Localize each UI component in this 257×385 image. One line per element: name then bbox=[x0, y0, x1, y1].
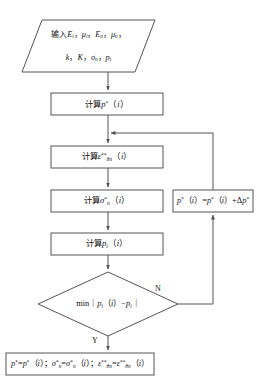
input-node-shape bbox=[22, 20, 155, 72]
update-node-shape bbox=[173, 190, 253, 212]
flowchart-graphics bbox=[0, 0, 257, 385]
decision-node-shape bbox=[38, 272, 178, 336]
connector-decision-no-to-update bbox=[178, 215, 213, 304]
branch-label-no: N bbox=[155, 284, 161, 293]
calc-epsilon-node-shape bbox=[51, 146, 163, 168]
calc-p-star-node-shape bbox=[51, 93, 163, 115]
calc-pi-node-shape bbox=[51, 233, 163, 255]
branch-label-yes: Y bbox=[92, 336, 98, 345]
flowchart-container: 输入Ei，μi，En，μn， k，K，σn，pi 计算p*（i） 计算ε**θn… bbox=[0, 0, 257, 385]
output-node-shape bbox=[6, 353, 154, 375]
calc-sigma-node-shape bbox=[51, 190, 163, 212]
